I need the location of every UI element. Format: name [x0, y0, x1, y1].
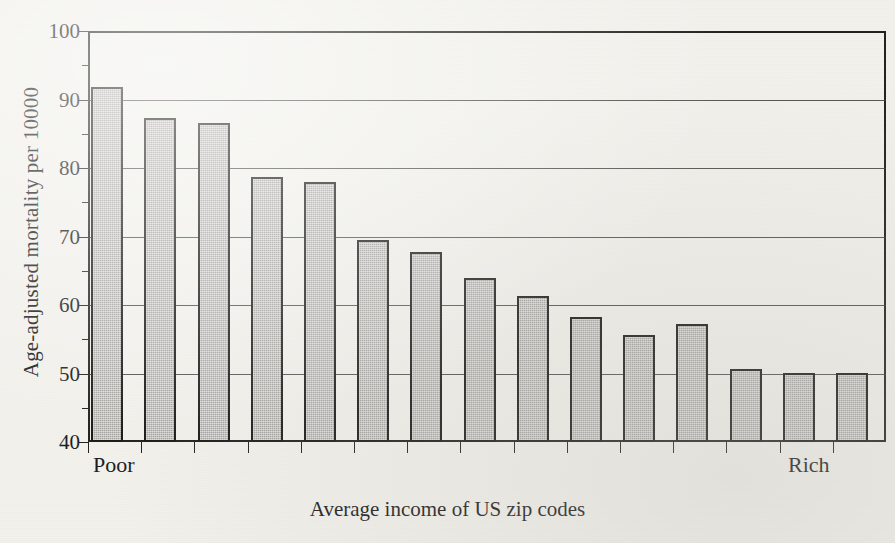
- bar-slot: [673, 31, 726, 442]
- bar-slot: [354, 31, 407, 442]
- x-axis-tick: [407, 442, 460, 454]
- bar: [410, 252, 442, 442]
- x-axis-tick: [301, 442, 354, 454]
- x-axis-tick: [141, 442, 194, 454]
- y-axis-tick-label: 100: [34, 21, 80, 42]
- x-axis-left-endpoint-label: Poor: [93, 452, 135, 478]
- bar: [304, 182, 336, 442]
- bar-slot: [248, 31, 301, 442]
- bar: [730, 369, 762, 442]
- bar-slot: [780, 31, 833, 442]
- bar-slot: [141, 31, 194, 442]
- bar-slot: [833, 31, 886, 442]
- x-axis-right-endpoint-label: Rich: [788, 452, 830, 478]
- bar-slot: [88, 31, 141, 442]
- x-axis-tick: [726, 442, 779, 454]
- x-axis-tick: [673, 442, 726, 454]
- bar-slot: [460, 31, 513, 442]
- x-axis-tick: [833, 442, 886, 454]
- y-axis-tick-label: 40: [34, 432, 80, 453]
- y-axis-tick-label: 90: [34, 89, 80, 110]
- bar-slot: [726, 31, 779, 442]
- bar-slot: [567, 31, 620, 442]
- x-axis-tick: [354, 442, 407, 454]
- x-axis-title: Average income of US zip codes: [0, 497, 895, 522]
- y-axis-tick-label: 70: [34, 226, 80, 247]
- plot-area: [88, 31, 886, 442]
- x-axis-tick: [248, 442, 301, 454]
- bar: [570, 317, 602, 442]
- bar-series: [88, 31, 886, 442]
- bar: [517, 296, 549, 442]
- y-axis-tick-label: 50: [34, 363, 80, 384]
- y-axis-tick-labels: 100908070605040: [28, 0, 80, 543]
- bar: [623, 335, 655, 442]
- x-axis-tick: [514, 442, 567, 454]
- bar-slot: [194, 31, 247, 442]
- x-axis-tick: [567, 442, 620, 454]
- bar: [464, 278, 496, 442]
- bar: [144, 118, 176, 442]
- chart-figure: Age-adjusted mortality per 10000 1009080…: [0, 0, 895, 543]
- bar-slot: [407, 31, 460, 442]
- bar: [783, 373, 815, 442]
- bar-slot: [514, 31, 567, 442]
- bar: [357, 240, 389, 442]
- x-axis-tick: [194, 442, 247, 454]
- y-axis-tick-label: 60: [34, 295, 80, 316]
- bar: [676, 324, 708, 442]
- bar: [91, 87, 123, 442]
- bar-slot: [620, 31, 673, 442]
- x-axis-tick: [620, 442, 673, 454]
- bar-slot: [301, 31, 354, 442]
- x-axis-tick-marks: [88, 442, 886, 454]
- y-axis-tick-label: 80: [34, 158, 80, 179]
- bar: [198, 123, 230, 442]
- bar: [251, 177, 283, 442]
- x-axis-tick: [460, 442, 513, 454]
- bar: [836, 373, 868, 442]
